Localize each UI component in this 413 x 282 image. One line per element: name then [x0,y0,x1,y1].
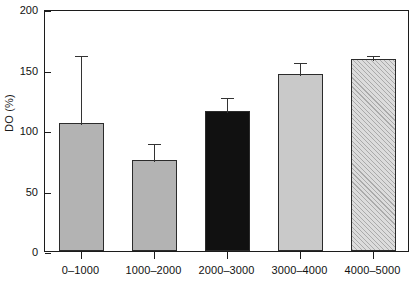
x-tick-label: 4000–5000 [345,264,401,276]
bar [59,123,104,251]
error-bar-stem [81,56,82,125]
bar-group [205,11,250,251]
x-tick-mark [227,252,228,259]
y-tick-mark [45,11,51,12]
bar-group [59,11,104,251]
plot-area [44,10,409,252]
bar-group [132,11,177,251]
y-tick-label: 50 [8,186,38,197]
x-tick-label: 0–1000 [62,264,99,276]
bar [132,160,177,251]
y-tick-mark [45,132,51,133]
y-tick-mark [45,193,51,194]
bar [351,59,396,251]
y-tick-label: 100 [8,126,38,137]
y-tick-label: 150 [8,65,38,76]
x-tick-label: 2000–3000 [199,264,255,276]
error-bar-cap [148,144,161,145]
x-axis: 0–10001000–20002000–30003000–40004000–50… [44,252,409,282]
error-bar-stem [300,63,301,76]
y-axis-tick-labels: 050100150200 [0,0,38,282]
x-tick-mark [300,252,301,259]
error-bar-cap [294,63,307,64]
bar-group [351,11,396,251]
y-tick-mark [45,72,51,73]
x-tick-label: 1000–2000 [126,264,182,276]
error-bar-cap [367,56,380,57]
x-tick-mark [373,252,374,259]
y-tick-label: 200 [8,5,38,16]
bar [205,111,250,251]
error-bar-stem [227,98,228,113]
x-tick-label: 3000–4000 [272,264,328,276]
error-bar-cap [75,56,88,57]
x-tick-mark [154,252,155,259]
y-tick-label: 0 [8,247,38,258]
bar-chart: DO (%) 050100150200 0–10001000–20002000–… [0,0,413,282]
bar [278,74,323,251]
error-bar-cap [221,98,234,99]
x-tick-mark [81,252,82,259]
bar-group [278,11,323,251]
error-bar-stem [154,144,155,162]
